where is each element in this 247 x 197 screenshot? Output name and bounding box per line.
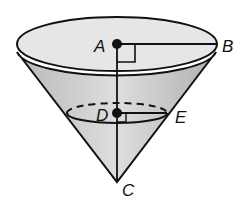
- label-B: B: [222, 37, 233, 56]
- point-A: [112, 39, 122, 49]
- point-D: [112, 108, 122, 118]
- label-D: D: [96, 106, 108, 125]
- label-A: A: [93, 37, 105, 56]
- label-C: C: [122, 181, 135, 197]
- label-E: E: [175, 108, 187, 127]
- cone-diagram: A B D E C: [0, 0, 247, 197]
- cone-svg: A B D E C: [0, 0, 247, 197]
